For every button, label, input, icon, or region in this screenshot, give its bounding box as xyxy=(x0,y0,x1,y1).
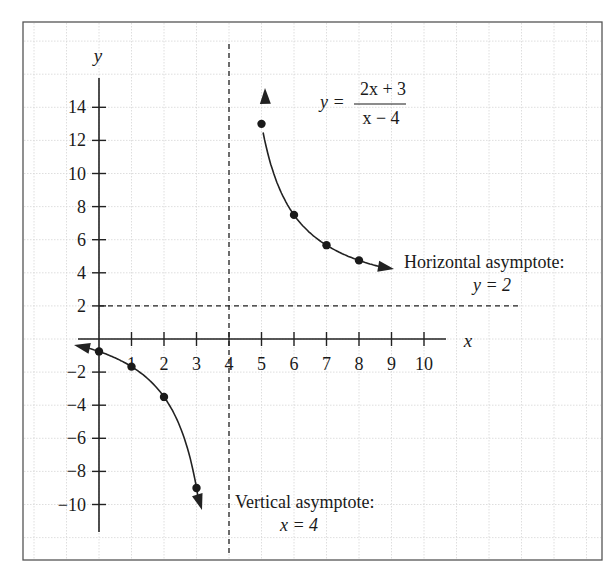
grid-lines xyxy=(24,23,601,559)
y-tick-label: −6 xyxy=(67,428,86,448)
y-tick-label: 14 xyxy=(68,97,86,117)
axes: 123456789101412108642−2−4−6−8−10 xyxy=(58,78,446,532)
x-tick-label: 6 xyxy=(290,354,299,374)
equation-numerator: 2x + 3 xyxy=(360,79,406,99)
x-tick-label: 4 xyxy=(225,354,234,374)
data-point xyxy=(160,393,168,401)
data-point xyxy=(355,256,363,264)
x-tick-label: 5 xyxy=(257,354,266,374)
x-tick-label: 3 xyxy=(192,354,201,374)
rational-function-graph: 123456789101412108642−2−4−6−8−10 y x y =… xyxy=(0,0,605,568)
x-axis-label: x xyxy=(463,330,473,351)
y-tick-label: 10 xyxy=(68,164,86,184)
equation-lhs: y = xyxy=(318,92,345,112)
y-tick-label: −4 xyxy=(67,395,86,415)
vertical-asymptote-equation: x = 4 xyxy=(279,515,318,535)
vertical-asymptote-label: Vertical asymptote: xyxy=(235,492,374,512)
y-tick-label: −2 xyxy=(67,362,86,382)
x-tick-label: 9 xyxy=(387,354,396,374)
data-point xyxy=(322,241,330,249)
data-point xyxy=(95,347,103,355)
x-tick-label: 2 xyxy=(160,354,169,374)
function-equation: y = 2x + 3 x − 4 xyxy=(318,79,406,128)
x-tick-label: 7 xyxy=(322,354,331,374)
chart-frame xyxy=(23,22,602,560)
y-axis-label: y xyxy=(92,45,103,66)
y-tick-label: 12 xyxy=(68,130,86,150)
y-tick-label: −8 xyxy=(67,461,86,481)
y-tick-label: −10 xyxy=(58,495,86,515)
x-tick-label: 8 xyxy=(355,354,364,374)
horizontal-asymptote-label: Horizontal asymptote: xyxy=(404,252,564,272)
y-tick-label: 6 xyxy=(77,230,86,250)
data-point xyxy=(192,484,200,492)
arrow-left-icon xyxy=(74,343,91,354)
x-tick-label: 10 xyxy=(415,354,433,374)
y-tick-label: 4 xyxy=(77,263,86,283)
arrow-down-icon xyxy=(192,493,203,510)
function-curves xyxy=(74,88,394,510)
data-point xyxy=(290,211,298,219)
data-point xyxy=(127,362,135,370)
y-tick-label: 8 xyxy=(77,197,86,217)
horizontal-asymptote-equation: y = 2 xyxy=(471,275,511,295)
data-point xyxy=(257,120,265,128)
equation-denominator: x − 4 xyxy=(362,108,399,128)
y-tick-label: 2 xyxy=(77,296,86,316)
